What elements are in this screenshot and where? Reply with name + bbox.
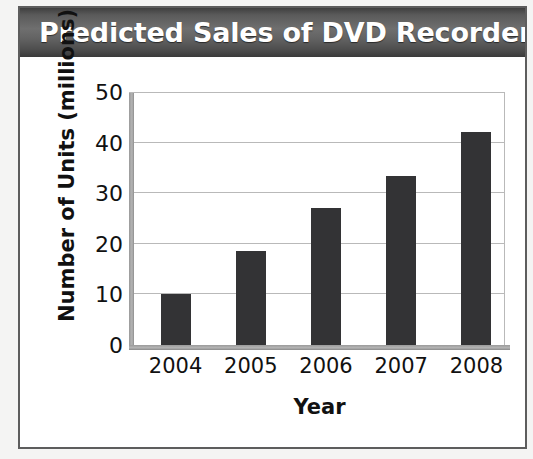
- y-tick-label: 40: [73, 130, 123, 155]
- y-tick-label: 30: [73, 181, 123, 206]
- chart-title: Predicted Sales of DVD Recorders: [20, 17, 527, 48]
- y-axis-spine: [129, 93, 134, 346]
- x-tick-label: 2004: [141, 354, 211, 378]
- x-axis-tick-labels: 20042005200620072008: [129, 354, 510, 386]
- plot-area: [129, 92, 505, 345]
- y-tick-label: 20: [73, 231, 123, 256]
- x-axis-spine: [129, 345, 510, 350]
- x-tick-label: 2008: [441, 354, 511, 378]
- chart-title-bar: Predicted Sales of DVD Recorders: [18, 6, 527, 57]
- bar: [461, 132, 491, 345]
- bar: [236, 251, 266, 345]
- y-tick-label: 0: [73, 333, 123, 358]
- x-tick-label: 2007: [366, 354, 436, 378]
- bar: [311, 208, 341, 345]
- x-axis-title: Year: [129, 395, 510, 419]
- gridline: [134, 142, 504, 143]
- bar: [161, 294, 191, 345]
- y-tick-label: 50: [73, 80, 123, 105]
- x-tick-label: 2006: [291, 354, 361, 378]
- x-tick-label: 2005: [216, 354, 286, 378]
- bar: [386, 176, 416, 346]
- y-axis-tick-labels: 01020304050: [67, 92, 123, 345]
- chart-plot-container: Number of Units (millions) 01020304050 2…: [20, 57, 525, 447]
- chart-page: Predicted Sales of DVD Recorders Number …: [0, 0, 533, 459]
- y-tick-label: 10: [73, 282, 123, 307]
- gridline: [134, 192, 504, 193]
